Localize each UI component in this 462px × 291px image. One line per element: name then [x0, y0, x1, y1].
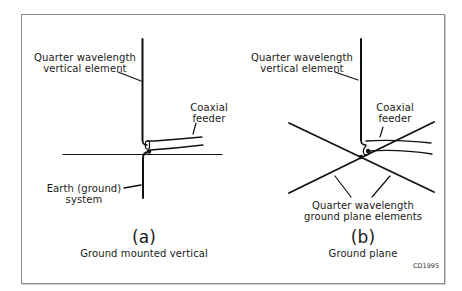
coax-feeder-b — [366, 140, 431, 143]
leader-radial-left — [335, 176, 351, 197]
leader-coax-b — [380, 127, 383, 137]
label-coaxial-feeder-a: Coaxial feeder — [186, 102, 232, 124]
label-ground-plane-elements: Quarter wavelength ground plane elements — [300, 200, 426, 222]
leader-earth-a — [124, 185, 141, 188]
earth-rod-a — [143, 152, 149, 198]
figure-code: CD1995 — [411, 261, 441, 272]
coax-feeder-b-lower — [369, 150, 432, 154]
caption-b: Ground plane — [318, 248, 408, 259]
coax-feeder-a — [147, 137, 202, 141]
feed-bend-b — [361, 140, 366, 145]
label-coaxial-feeder-b: Coaxial feeder — [372, 102, 418, 124]
leader-coax-a — [193, 123, 196, 134]
caption-a: Ground mounted vertical — [74, 248, 214, 259]
caption-letter-b: (b) — [343, 228, 383, 246]
leader-radial-right — [372, 176, 390, 197]
label-vertical-element-b: Quarter wavelength vertical element — [248, 52, 356, 74]
label-vertical-element-a: Quarter wavelength vertical element — [31, 52, 139, 74]
caption-letter-a: (a) — [124, 228, 164, 246]
label-earth-system-a: Earth (ground) system — [42, 183, 126, 205]
coax-feeder-a-lower — [150, 145, 203, 150]
